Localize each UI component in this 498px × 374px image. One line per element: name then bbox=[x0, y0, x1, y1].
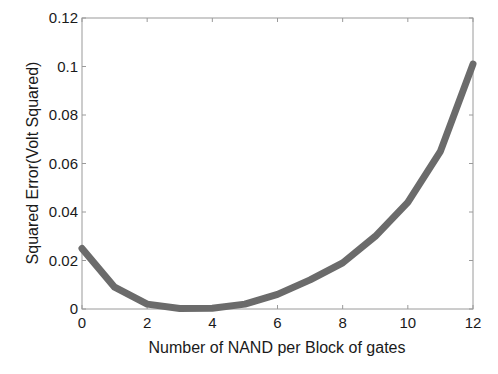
y-tick-label: 0.1 bbox=[57, 58, 78, 75]
x-tick-label: 8 bbox=[338, 314, 346, 331]
x-tick-label: 2 bbox=[143, 314, 151, 331]
y-tick-label: 0.08 bbox=[49, 106, 78, 123]
y-tick-label: 0 bbox=[70, 300, 78, 317]
x-tick-label: 12 bbox=[465, 314, 482, 331]
y-tick-label: 0.02 bbox=[49, 252, 78, 269]
y-tick-label: 0.12 bbox=[49, 9, 78, 26]
x-tick-label: 4 bbox=[208, 314, 216, 331]
line-chart: 024681012 00.020.040.060.080.10.12 Numbe… bbox=[0, 0, 498, 374]
y-axis-label: Squared Error(Volt Squared) bbox=[24, 62, 41, 265]
y-tick-label: 0.04 bbox=[49, 203, 78, 220]
x-tick-label: 10 bbox=[399, 314, 416, 331]
y-tick-label: 0.06 bbox=[49, 155, 78, 172]
x-axis-label: Number of NAND per Block of gates bbox=[149, 339, 406, 356]
x-tick-label: 6 bbox=[273, 314, 281, 331]
plot-area bbox=[82, 18, 473, 309]
x-tick-label: 0 bbox=[78, 314, 86, 331]
